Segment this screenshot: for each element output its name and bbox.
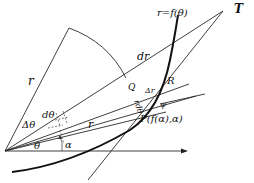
rays	[5, 11, 223, 151]
r-label-cap: R	[166, 75, 175, 86]
tangent-line	[88, 11, 223, 180]
delta-theta-label: Δθ	[21, 119, 35, 130]
psi-label: ψ	[160, 100, 167, 109]
dr-label: dr	[137, 50, 150, 63]
q-label: Q	[128, 82, 136, 92]
outer-radius-label: r	[28, 74, 35, 88]
theta-label: θ	[34, 140, 40, 151]
delta-r-label: Δr	[144, 86, 156, 95]
polar-axis	[5, 149, 188, 154]
point-p-label: P(f(α),α)	[139, 113, 183, 124]
curve-equation-label: r=f(θ)	[157, 7, 188, 18]
polar-diagram: r=f(θ) T r dr R Q Δr rdθ ψ P(f(α),α) dθ …	[0, 0, 254, 183]
outer-sector	[5, 28, 126, 151]
psi-ray	[160, 94, 205, 104]
alpha-label: α	[65, 139, 72, 150]
inner-radius-label: r	[88, 118, 94, 131]
axis-arrow-icon	[181, 149, 188, 154]
point-t-label: T	[234, 2, 244, 16]
dtheta-label: dθ	[42, 109, 54, 120]
